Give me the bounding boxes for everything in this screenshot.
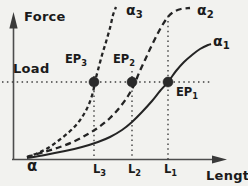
x-axis-label: Length — [206, 169, 248, 182]
x-axis-arrow-icon — [212, 155, 227, 163]
curve-label-alpha3: α3 — [126, 3, 143, 17]
equilibrium-dot-ep2 — [127, 77, 137, 87]
origin-alpha-label: α — [27, 159, 37, 174]
y-axis-arrow-icon — [9, 12, 17, 29]
label-ep1: EP1 — [176, 87, 198, 99]
curve-label-alpha2: α2 — [197, 3, 214, 17]
equilibrium-dot-ep3 — [89, 77, 99, 87]
curve-label-alpha1: α1 — [213, 34, 230, 48]
load-level-label: Load — [13, 62, 50, 75]
y-axis-label: Force — [24, 10, 66, 23]
tick-label-l2: L2 — [128, 164, 141, 176]
label-ep3: EP3 — [65, 54, 87, 66]
tick-label-l3: L3 — [93, 164, 106, 176]
force-length-figure: Force Load Length α α1 α2 α3 EP1 EP2 EP3… — [0, 0, 248, 186]
label-ep2: EP2 — [113, 54, 135, 66]
tick-label-l1: L1 — [164, 164, 177, 176]
equilibrium-points-layer — [89, 77, 173, 87]
equilibrium-dot-ep1 — [163, 77, 173, 87]
